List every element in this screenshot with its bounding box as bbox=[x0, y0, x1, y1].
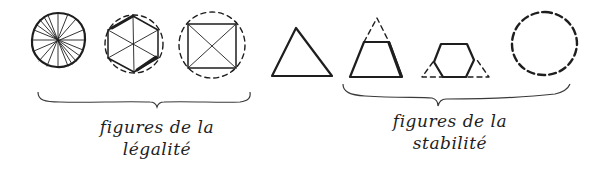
hexagon-in-triangle-figure bbox=[422, 44, 489, 77]
stabilite-brace bbox=[343, 84, 570, 106]
diagram-canvas: figures de la légalité figures de la sta… bbox=[0, 0, 601, 184]
circle-with-spokes-figure bbox=[32, 13, 85, 67]
legalite-caption-line1: figures de la bbox=[92, 116, 222, 138]
hexagon-in-circle-figure bbox=[105, 15, 163, 73]
stabilite-caption: figures de la stabilité bbox=[385, 110, 515, 154]
triangle-figure bbox=[272, 28, 332, 76]
figures-drawing bbox=[0, 0, 601, 184]
dashed-circle-figure bbox=[512, 12, 577, 75]
stabilite-caption-line1: figures de la bbox=[385, 110, 515, 132]
square-in-circle-figure bbox=[179, 12, 245, 78]
trapezoid-figure bbox=[350, 18, 402, 77]
stabilite-caption-line2: stabilité bbox=[385, 132, 515, 154]
legalite-brace bbox=[38, 92, 250, 107]
legalite-caption: figures de la légalité bbox=[92, 116, 222, 160]
legalite-caption-line2: légalité bbox=[92, 138, 222, 160]
